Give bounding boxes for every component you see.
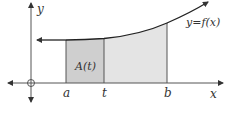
x-mark-a: a — [63, 86, 70, 100]
shaded-region-t-to-b — [104, 23, 167, 83]
x-mark-t: t — [102, 86, 107, 100]
curve-label: y=f(x) — [185, 16, 220, 29]
y-axis-label: y — [36, 2, 44, 16]
x-axis-label: x — [210, 87, 217, 101]
area-function-diagram: y x y=f(x) A(t) a t b — [0, 0, 228, 122]
x-mark-b: b — [164, 86, 172, 100]
region-label: A(t) — [74, 60, 96, 73]
